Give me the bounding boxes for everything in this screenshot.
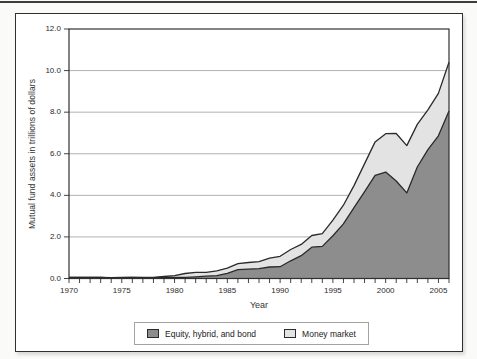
x-tick-label: 1990 — [271, 286, 289, 296]
x-tick-label: 1985 — [218, 286, 236, 296]
legend-item-equity: Equity, hybrid, and bond — [147, 329, 256, 339]
x-tick-label: 1970 — [60, 286, 78, 296]
x-tick-label: 1995 — [324, 286, 342, 296]
y-tick-label: 2.0 — [29, 232, 61, 242]
y-tick-label: 4.0 — [29, 190, 61, 200]
x-axis-title: Year — [69, 300, 449, 310]
page: Mutual fund assets in trillions of dolla… — [0, 0, 477, 359]
y-tick-label: 8.0 — [29, 107, 61, 117]
y-tick-label: 6.0 — [29, 149, 61, 159]
x-tick-label: 2005 — [430, 286, 448, 296]
x-tick-label: 1975 — [113, 286, 131, 296]
figure-panel: Mutual fund assets in trillions of dolla… — [15, 13, 463, 352]
y-tick-label: 10.0 — [29, 66, 61, 76]
y-tick-label: 0.0 — [29, 274, 61, 284]
page-top-rule — [0, 1, 477, 3]
legend-label-equity: Equity, hybrid, and bond — [165, 329, 256, 339]
x-tick-label: 2000 — [377, 286, 395, 296]
x-tick-label: 1980 — [166, 286, 184, 296]
y-tick-label: 12.0 — [29, 24, 61, 34]
legend-label-money-market: Money market — [302, 329, 356, 339]
legend-swatch-equity — [147, 329, 159, 338]
legend-swatch-money-market — [284, 329, 296, 338]
legend-item-money-market: Money market — [284, 329, 356, 339]
legend: Equity, hybrid, and bond Money market — [134, 322, 369, 345]
